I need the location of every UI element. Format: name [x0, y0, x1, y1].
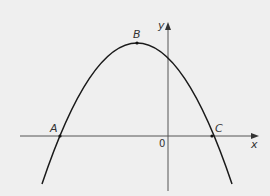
point-b: [135, 41, 138, 44]
parabola-curve: [42, 43, 232, 184]
origin-label: 0: [159, 138, 165, 149]
point-a: [58, 134, 61, 137]
diagram-canvas: A B C y x 0: [0, 0, 270, 196]
label-b: B: [133, 28, 141, 41]
y-axis-arrow-icon: [165, 22, 171, 30]
y-axis-label: y: [157, 19, 165, 32]
parabola-diagram: A B C y x 0: [0, 0, 270, 196]
label-a: A: [49, 122, 58, 135]
x-axis-label: x: [250, 138, 258, 151]
label-c: C: [215, 122, 223, 135]
point-c: [210, 134, 213, 137]
